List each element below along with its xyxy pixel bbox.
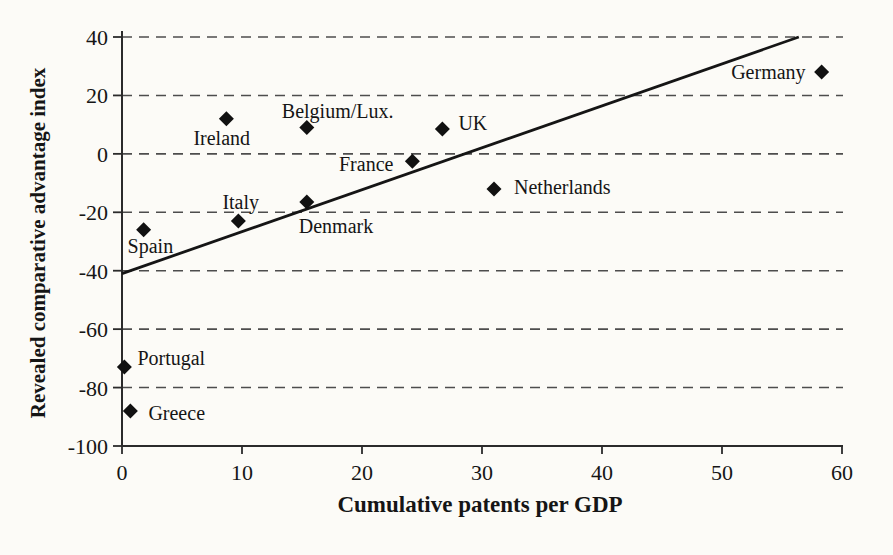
point-label: Spain <box>128 235 174 258</box>
x-tick-label: 20 <box>351 460 373 485</box>
data-point-diamond <box>219 111 234 126</box>
data-point-diamond <box>299 120 314 135</box>
x-tick-label: 30 <box>471 460 493 485</box>
y-tick-label: 40 <box>86 25 108 50</box>
x-tick-label: 50 <box>711 460 733 485</box>
point-label: UK <box>458 112 487 134</box>
point-label: Denmark <box>299 215 373 237</box>
x-axis-title: Cumulative patents per GDP <box>337 492 622 517</box>
y-axis-title: Revealed comparative advantage index <box>26 67 50 418</box>
data-point-diamond <box>814 65 829 80</box>
scanned-chart-page: 40200-20-40-60-80-1000102030405060 Spain… <box>0 0 893 555</box>
point-label: Ireland <box>193 127 250 149</box>
data-point-diamond <box>405 154 420 169</box>
point-label: Netherlands <box>514 176 611 198</box>
data-point-diamond <box>231 214 246 229</box>
point-label: Belgium/Lux. <box>282 100 394 123</box>
y-tick-label: -40 <box>79 259 108 284</box>
y-tick-label: -100 <box>68 434 108 459</box>
point-label: Italy <box>222 191 259 214</box>
x-tick-label: 10 <box>231 460 253 485</box>
data-point-diamond <box>117 360 132 375</box>
point-label: Portugal <box>137 347 205 370</box>
x-tick-label: 40 <box>591 460 613 485</box>
data-point-diamond <box>435 122 450 137</box>
y-tick-label: -60 <box>79 317 108 342</box>
y-tick-label: -80 <box>79 376 108 401</box>
axis-ticks <box>113 37 842 454</box>
axes <box>121 31 843 447</box>
data-point-diamond <box>123 403 138 418</box>
x-tick-label: 0 <box>117 460 128 485</box>
y-tick-label: 0 <box>97 142 108 167</box>
point-label: Greece <box>148 402 205 424</box>
y-tick-label: 20 <box>86 83 108 108</box>
y-tick-label: -20 <box>79 200 108 225</box>
scatter-chart: 40200-20-40-60-80-1000102030405060 Spain… <box>0 0 893 555</box>
trend-line <box>122 37 799 274</box>
data-point-diamond <box>487 181 502 196</box>
point-label: France <box>339 153 394 175</box>
point-label: Germany <box>731 61 805 84</box>
x-tick-label: 60 <box>831 460 853 485</box>
